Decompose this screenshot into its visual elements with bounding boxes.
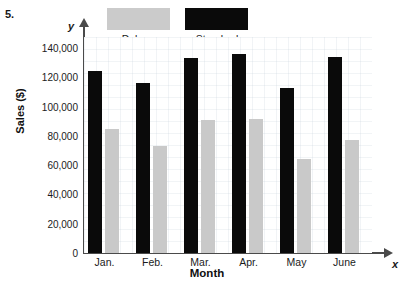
bar-standard-feb — [136, 83, 150, 253]
y-tick-label: 40,000 — [2, 189, 78, 200]
x-tick-label: Apr. — [239, 256, 258, 268]
legend-swatch-deluxe — [107, 8, 170, 30]
x-axis-name: x — [392, 258, 398, 270]
x-tick-label: Feb. — [142, 256, 163, 268]
bar-standard-june — [328, 57, 342, 253]
y-axis-title: Sales ($) — [14, 88, 26, 133]
plot-area — [84, 37, 372, 253]
bar-deluxe-jan — [105, 129, 119, 253]
x-axis-title: Month — [0, 267, 414, 279]
bar-deluxe-june — [345, 140, 359, 253]
bar-standard-jan — [88, 71, 102, 253]
bar-deluxe-mar — [201, 120, 215, 253]
bar-standard-mar — [184, 58, 198, 253]
y-axis-arrow-icon — [79, 18, 89, 27]
x-axis-arrow-icon — [384, 248, 393, 258]
y-axis-name: y — [68, 20, 74, 32]
y-tick-label: 0 — [2, 248, 78, 259]
y-axis-tick-labels: 020,00040,00060,00080,000100,000120,0001… — [0, 0, 78, 283]
x-tick-label: May — [287, 256, 307, 268]
bar-deluxe-apr — [249, 119, 263, 253]
y-tick-label: 140,000 — [2, 43, 78, 54]
y-tick-label: 20,000 — [2, 218, 78, 229]
bar-chart-figure: 5. Deluxe Standard 020,00040,00060,00080… — [0, 0, 414, 283]
legend-swatch-standard — [185, 8, 248, 30]
x-tick-label: Mar. — [190, 256, 210, 268]
x-tick-label: June — [333, 256, 356, 268]
y-tick-label: 120,000 — [2, 72, 78, 83]
bar-series-group — [84, 37, 372, 253]
bar-deluxe-feb — [153, 146, 167, 253]
y-tick-label: 60,000 — [2, 160, 78, 171]
bar-standard-may — [280, 88, 294, 253]
x-tick-label: Jan. — [95, 256, 115, 268]
bar-standard-apr — [232, 54, 246, 253]
bar-deluxe-may — [297, 159, 311, 253]
